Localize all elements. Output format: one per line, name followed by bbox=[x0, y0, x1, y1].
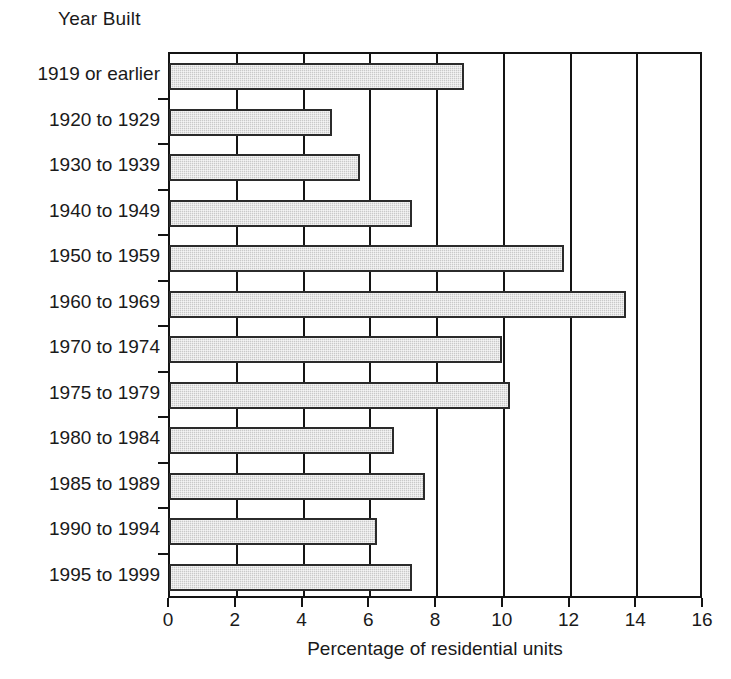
category-label: 1970 to 1974 bbox=[0, 336, 160, 358]
x-axis-tick-10 bbox=[501, 598, 503, 607]
bar-row bbox=[170, 236, 700, 282]
bar[interactable] bbox=[169, 245, 564, 272]
x-axis-tick-6 bbox=[367, 598, 369, 607]
x-axis-title: Percentage of residential units bbox=[168, 638, 702, 660]
bar[interactable] bbox=[169, 291, 626, 318]
category-label: 1995 to 1999 bbox=[0, 564, 160, 586]
plot-area bbox=[168, 52, 702, 598]
bar[interactable] bbox=[169, 109, 332, 136]
bar[interactable] bbox=[169, 63, 464, 90]
y-axis-tick bbox=[158, 98, 168, 100]
y-axis-tick bbox=[158, 189, 168, 191]
y-axis-title: Year Built bbox=[58, 8, 141, 30]
x-axis-tick-label: 16 bbox=[691, 609, 712, 631]
x-axis-tick-label: 4 bbox=[296, 609, 307, 631]
y-axis-tick bbox=[158, 416, 168, 418]
category-label: 1960 to 1969 bbox=[0, 291, 160, 313]
y-axis-tick bbox=[158, 507, 168, 509]
x-axis-tick-label: 0 bbox=[163, 609, 174, 631]
x-axis-tick-label: 10 bbox=[491, 609, 512, 631]
category-label: 1930 to 1939 bbox=[0, 154, 160, 176]
y-axis-tick bbox=[158, 371, 168, 373]
x-axis-tick-label: 14 bbox=[625, 609, 646, 631]
x-axis-tick-label: 2 bbox=[229, 609, 240, 631]
x-axis-tick-label: 8 bbox=[430, 609, 441, 631]
bar-row bbox=[170, 418, 700, 464]
bar[interactable] bbox=[169, 336, 502, 363]
x-axis-tick-16 bbox=[701, 598, 703, 607]
y-axis-tick bbox=[158, 143, 168, 145]
y-axis-tick bbox=[158, 234, 168, 236]
x-axis-tick-2 bbox=[234, 598, 236, 607]
bar[interactable] bbox=[169, 564, 412, 591]
x-axis-tick-8 bbox=[434, 598, 436, 607]
bar[interactable] bbox=[169, 154, 360, 181]
bar[interactable] bbox=[169, 382, 510, 409]
bar-row bbox=[170, 100, 700, 146]
bar-row bbox=[170, 373, 700, 419]
bar-row bbox=[170, 145, 700, 191]
bar-row bbox=[170, 555, 700, 601]
x-axis-tick-label: 12 bbox=[558, 609, 579, 631]
bar-row bbox=[170, 509, 700, 555]
bar[interactable] bbox=[169, 427, 394, 454]
category-label-group: 1919 or earlier1920 to 19291930 to 19391… bbox=[0, 52, 160, 598]
y-axis-tick bbox=[158, 462, 168, 464]
category-label: 1919 or earlier bbox=[0, 63, 160, 85]
category-label: 1975 to 1979 bbox=[0, 382, 160, 404]
y-axis-tick-group bbox=[158, 52, 168, 598]
bar-chart-figure: Year Built 1919 or earlier1920 to 192919… bbox=[0, 0, 731, 679]
bar[interactable] bbox=[169, 518, 377, 545]
x-axis-tick-14 bbox=[634, 598, 636, 607]
category-label: 1985 to 1989 bbox=[0, 473, 160, 495]
category-label: 1980 to 1984 bbox=[0, 427, 160, 449]
bar-row bbox=[170, 327, 700, 373]
bar-row bbox=[170, 282, 700, 328]
category-label: 1920 to 1929 bbox=[0, 109, 160, 131]
x-axis-tick-12 bbox=[568, 598, 570, 607]
bar-row bbox=[170, 464, 700, 510]
y-axis-tick bbox=[158, 280, 168, 282]
x-axis-tick-label: 6 bbox=[363, 609, 374, 631]
y-axis-tick bbox=[158, 553, 168, 555]
bar[interactable] bbox=[169, 473, 425, 500]
bar[interactable] bbox=[169, 200, 412, 227]
bar-row bbox=[170, 191, 700, 237]
y-axis-tick bbox=[158, 325, 168, 327]
x-axis-tick-4 bbox=[301, 598, 303, 607]
category-label: 1950 to 1959 bbox=[0, 245, 160, 267]
bar-row bbox=[170, 54, 700, 100]
category-label: 1990 to 1994 bbox=[0, 518, 160, 540]
x-axis-tick-0 bbox=[167, 598, 169, 607]
category-label: 1940 to 1949 bbox=[0, 200, 160, 222]
